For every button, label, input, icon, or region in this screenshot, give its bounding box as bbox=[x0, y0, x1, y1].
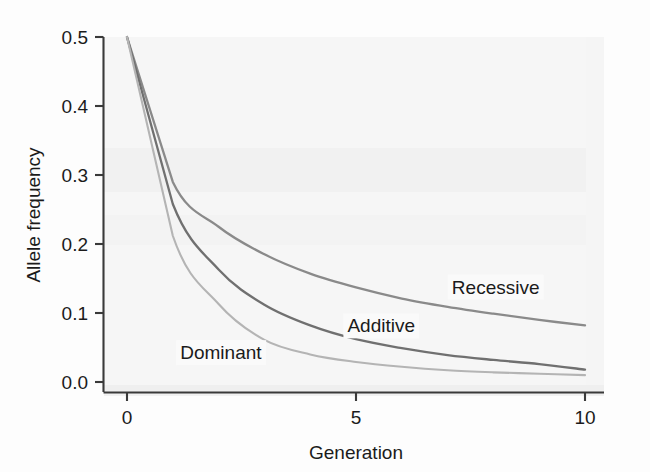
y-tick-label-0: 0.0 bbox=[62, 372, 88, 393]
y-tick-label-1: 0.1 bbox=[62, 303, 88, 324]
y-axis-title: Allele frequency bbox=[23, 147, 44, 283]
chart-plot: 0.5 0.4 0.3 0.2 0.1 0.0 0 5 10 Generatio… bbox=[0, 0, 650, 472]
x-tick-label-5: 5 bbox=[351, 407, 362, 428]
series-label-dominant: Dominant bbox=[180, 342, 262, 363]
y-tick-label-4: 0.4 bbox=[62, 96, 89, 117]
x-axis: 0 5 10 bbox=[104, 393, 605, 429]
y-axis: 0.5 0.4 0.3 0.2 0.1 0.0 bbox=[62, 27, 104, 393]
x-tick-label-10: 10 bbox=[574, 407, 595, 428]
series-label-recessive: Recessive bbox=[452, 277, 540, 298]
y-tick-label-3: 0.3 bbox=[62, 165, 88, 186]
series-label-additive: Additive bbox=[347, 315, 415, 336]
y-tick-label-5: 0.5 bbox=[62, 27, 88, 48]
figure-container: 0.5 0.4 0.3 0.2 0.1 0.0 0 5 10 Generatio… bbox=[0, 0, 650, 472]
x-tick-label-0: 0 bbox=[122, 407, 133, 428]
x-axis-title: Generation bbox=[309, 442, 403, 463]
y-tick-label-2: 0.2 bbox=[62, 234, 88, 255]
